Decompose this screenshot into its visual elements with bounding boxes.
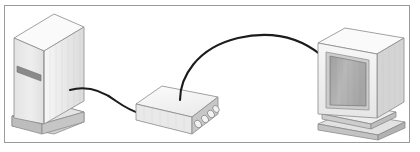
tower-computer: [12, 14, 84, 134]
tower-front-face: [14, 38, 44, 124]
network-hub: [136, 86, 221, 134]
figure-canvas: Network hardware connection diagram Isom…: [0, 0, 420, 152]
cable-hub-to-monitor: [180, 35, 321, 100]
diagram-svg: Network hardware connection diagram Isom…: [0, 0, 420, 152]
network-diagram-illustration: Network hardware connection diagram Isom…: [0, 0, 420, 152]
crt-monitor: [318, 28, 405, 140]
